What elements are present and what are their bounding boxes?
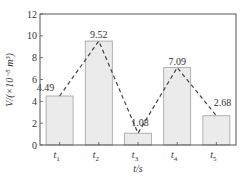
data-label-t3: 1.08: [131, 117, 149, 128]
y-tick-label: 0: [32, 140, 37, 151]
y-tick-label: 8: [32, 52, 37, 63]
y-axis-ticks: 024681012: [27, 9, 43, 151]
x-axis-label: t/s: [133, 163, 143, 174]
data-label-t5: 2.68: [214, 97, 232, 108]
y-tick-label: 12: [27, 9, 37, 20]
y-tick-label: 10: [27, 30, 37, 41]
y-tick-label: 4: [32, 96, 37, 107]
bar-t1: [46, 96, 73, 145]
x-tick-label-t5: t5: [210, 149, 217, 163]
x-tick-label-t3: t3: [132, 149, 139, 163]
bar-chart: 4.499.521.087.092.68 024681012 t1t2t3t4t…: [0, 0, 242, 178]
bar-t2: [85, 41, 112, 145]
bar-t4: [164, 68, 191, 145]
data-label-t2: 9.52: [90, 29, 108, 40]
y-axis-label: V/(×10⁻⁵ m³): [4, 53, 16, 107]
bar-t5: [203, 116, 230, 145]
x-tick-label-t1: t1: [53, 149, 60, 163]
data-label-t4: 7.09: [168, 56, 186, 67]
bars-group: [46, 41, 230, 145]
data-label-t1: 4.49: [37, 82, 55, 93]
x-tick-label-t2: t2: [93, 149, 100, 163]
y-tick-label: 2: [32, 118, 37, 129]
x-tick-label-t4: t4: [171, 149, 178, 163]
y-tick-label: 6: [32, 74, 37, 85]
